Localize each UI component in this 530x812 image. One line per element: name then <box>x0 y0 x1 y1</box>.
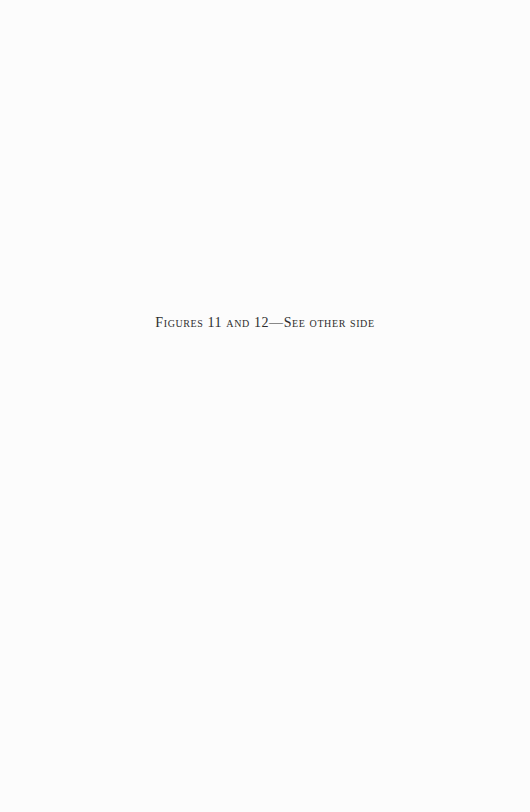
figure-caption: Figures 11 and 12—See other side <box>0 314 530 332</box>
document-page: Figures 11 and 12—See other side <box>0 0 530 812</box>
